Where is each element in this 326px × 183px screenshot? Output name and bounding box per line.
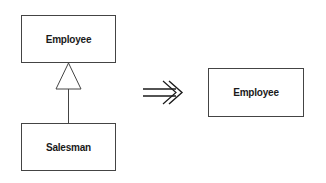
salesman-subclass-box: Salesman	[21, 123, 116, 171]
generalization-triangle-icon	[56, 63, 81, 89]
salesman-subclass-label: Salesman	[46, 142, 91, 153]
refactoring-arrow-icon	[143, 81, 182, 104]
employee-superclass-box: Employee	[21, 15, 116, 63]
employee-result-box: Employee	[208, 68, 304, 117]
employee-result-label: Employee	[233, 87, 279, 98]
employee-superclass-label: Employee	[46, 34, 92, 45]
